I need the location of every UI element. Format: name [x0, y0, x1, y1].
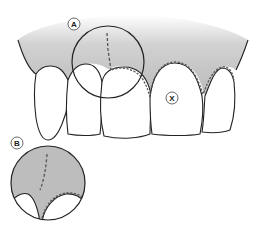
- dental-diagram: A X B: [0, 0, 259, 228]
- label-b: B: [14, 139, 20, 148]
- inset-b: B: [8, 137, 88, 228]
- marker-x: X: [166, 92, 178, 104]
- tooth-left-lateral: [35, 66, 69, 140]
- label-a: A: [71, 20, 77, 29]
- label-x: X: [169, 94, 175, 103]
- tooth-left-central: [67, 64, 103, 136]
- tooth-center-left: [101, 67, 151, 138]
